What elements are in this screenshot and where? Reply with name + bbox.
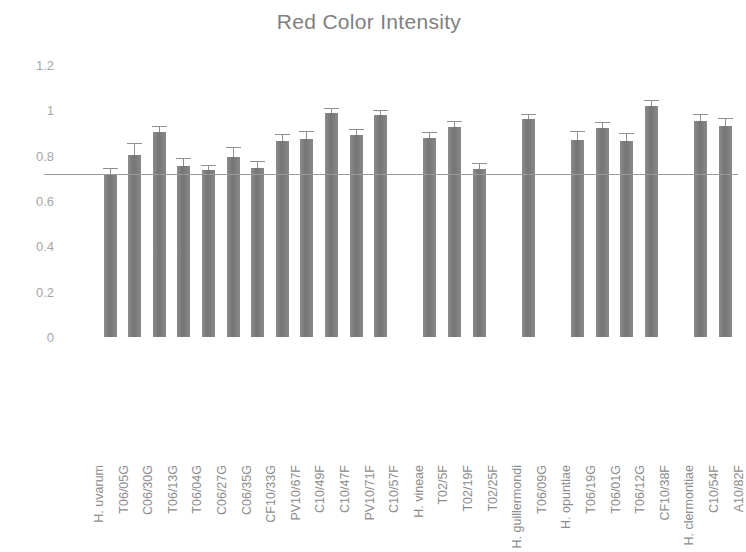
error-bar-line [306, 132, 307, 139]
error-bar-cap [324, 108, 339, 109]
x-axis-tick-label: T02/5F [436, 462, 450, 552]
x-axis-tick-label: T02/19F [461, 462, 475, 552]
bar [448, 127, 461, 337]
bar-group [276, 141, 289, 337]
bar-group [374, 115, 387, 337]
x-axis-tick-label: T06/13G [166, 462, 180, 552]
error-bar-line [577, 132, 578, 140]
bar-group [596, 128, 609, 337]
x-axis-tick-label: C10/54F [707, 462, 721, 552]
x-axis-tick-label: CF10/38F [658, 462, 672, 552]
error-bar-line [331, 109, 332, 112]
x-axis-tick-label: H. opuntiae [559, 462, 573, 552]
y-axis-tick-label: 0.2 [8, 284, 54, 299]
bar [276, 141, 289, 337]
error-bar-cap [226, 147, 241, 148]
x-axis-tick-label: T02/25F [486, 462, 500, 552]
bar [522, 119, 535, 337]
bar-group [694, 121, 707, 337]
bar [719, 126, 732, 337]
bar [300, 139, 313, 337]
error-bar-cap [570, 131, 585, 132]
bar [694, 121, 707, 337]
x-axis-tick-label: PV10/71F [363, 462, 377, 552]
bar-group [645, 106, 658, 337]
error-bar-line [725, 119, 726, 126]
error-bar-cap [176, 158, 191, 159]
bar-group [620, 141, 633, 337]
bar-group [473, 169, 486, 337]
y-axis-tick-label: 0.8 [8, 148, 54, 163]
x-axis-tick-label: T06/05G [117, 462, 131, 552]
x-axis-tick-label: A10/82F [732, 462, 746, 552]
x-axis-tick-label: PV10/67F [289, 462, 303, 552]
bar [423, 138, 436, 337]
error-bar-cap [718, 118, 733, 119]
error-bar-line [134, 144, 135, 154]
error-bar-line [159, 127, 160, 132]
error-bar-cap [521, 114, 536, 115]
y-axis-tick-label: 0.4 [8, 239, 54, 254]
error-bar-cap [152, 126, 167, 127]
x-axis-tick-label: T06/19G [584, 462, 598, 552]
error-bar-cap [373, 110, 388, 111]
error-bar-line [257, 162, 258, 168]
error-bar-cap [595, 122, 610, 123]
error-bar-cap [447, 121, 462, 122]
x-axis-tick-label: C10/47F [338, 462, 352, 552]
y-axis-tick-label: 1.2 [8, 58, 54, 73]
bar [473, 169, 486, 337]
error-bar-line [208, 166, 209, 171]
error-bar-cap [619, 133, 634, 134]
error-bar-line [651, 101, 652, 106]
error-bar-line [233, 148, 234, 157]
error-bar-cap [299, 131, 314, 132]
bar [104, 175, 117, 337]
bar [571, 140, 584, 337]
x-axis-tick-label: C06/30G [141, 462, 155, 552]
bar-group [719, 126, 732, 337]
y-axis-tick-label: 0.6 [8, 194, 54, 209]
x-axis-tick-label: H. vineae [412, 462, 426, 552]
x-axis-tick-label: T06/09G [535, 462, 549, 552]
x-axis-tick-label: C06/35G [240, 462, 254, 552]
error-bar-line [282, 135, 283, 141]
error-bar-cap [201, 165, 216, 166]
bar-group [153, 132, 166, 337]
error-bar-line [528, 115, 529, 120]
error-bar-cap [422, 132, 437, 133]
bar-group [104, 175, 117, 337]
error-bar-line [626, 134, 627, 141]
error-bar-line [380, 111, 381, 114]
x-axis-tick-label: T06/04G [190, 462, 204, 552]
error-bar-line [183, 159, 184, 166]
bar-group [423, 138, 436, 337]
bar-group [522, 119, 535, 337]
error-bar-cap [472, 163, 487, 164]
error-bar-cap [127, 143, 142, 144]
x-axis-tick-label: H. clermontiae [682, 462, 696, 552]
error-bar-line [429, 133, 430, 138]
chart-title: Red Color Intensity [0, 10, 738, 34]
error-bar-line [454, 122, 455, 128]
x-axis-tick-label: C10/49F [313, 462, 327, 552]
reference-line [44, 174, 738, 175]
bar [227, 157, 240, 337]
x-axis: H. uvarumT06/05GC06/30GT06/13GT06/04GC06… [62, 342, 734, 464]
x-axis-tick-label: CF10/33G [264, 462, 278, 552]
bar [374, 115, 387, 337]
error-bar-cap [275, 134, 290, 135]
bar [620, 141, 633, 337]
x-axis-tick-label: C06/27G [215, 462, 229, 552]
bar-group [128, 155, 141, 337]
bar-group [227, 157, 240, 337]
bar-group [300, 139, 313, 337]
bar [202, 170, 215, 337]
bar-group [350, 135, 363, 337]
bar [177, 166, 190, 337]
bar [153, 132, 166, 337]
plot-area [62, 60, 734, 342]
bar-group [448, 127, 461, 337]
bar [645, 106, 658, 337]
